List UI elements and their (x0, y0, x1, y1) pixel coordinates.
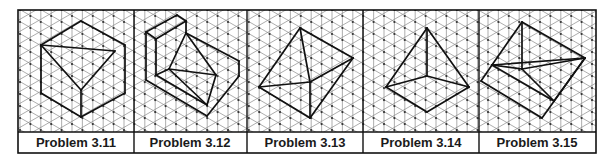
grid-dot (373, 57, 375, 59)
grid-dot (50, 63, 52, 65)
grid-dot (144, 105, 146, 107)
grid-dot (165, 129, 167, 131)
edge-P-C (300, 28, 310, 82)
grid-dot (352, 105, 354, 107)
grid-dot (497, 81, 499, 83)
grid-dot (40, 117, 42, 119)
grid-dot (466, 27, 468, 29)
grid-dot (383, 99, 385, 101)
grid-dot (289, 69, 291, 71)
grid-dot (539, 129, 541, 131)
grid-dot (549, 87, 551, 89)
grid-dot (539, 81, 541, 83)
grid-dot (19, 129, 21, 131)
grid-dot (289, 93, 291, 95)
grid-dot (92, 63, 94, 65)
grid-dot (217, 87, 219, 89)
grid-dot (518, 57, 520, 59)
grid-dot (206, 69, 208, 71)
grid-dot (269, 45, 271, 47)
grid-dot (29, 123, 31, 125)
grid-dot (518, 117, 520, 119)
grid-line (18, 153, 596, 167)
grid-dot (518, 93, 520, 95)
grid-dot (71, 99, 73, 101)
grid-dot (102, 45, 104, 47)
grid-dot (487, 27, 489, 29)
grid-dot (508, 15, 510, 17)
grid-dot (269, 33, 271, 35)
grid-dot (425, 15, 427, 17)
grid-dot (206, 129, 208, 131)
grid-dot (154, 111, 156, 113)
grid-dot (539, 69, 541, 71)
grid-dot (217, 111, 219, 113)
grid-dot (29, 39, 31, 41)
grid-dot (373, 117, 375, 119)
edge-E-L (186, 33, 216, 75)
grid-dot (175, 63, 177, 65)
grid-dot (248, 117, 250, 119)
grid-dot (393, 33, 395, 35)
grid-dot (581, 69, 583, 71)
grid-dot (383, 87, 385, 89)
grid-dot (497, 105, 499, 107)
grid-dot (539, 45, 541, 47)
grid-dot (570, 63, 572, 65)
grid-dot (497, 117, 499, 119)
grid-dot (310, 129, 312, 131)
grid-dot (81, 129, 83, 131)
grid-dot (154, 15, 156, 17)
grid-dot (165, 57, 167, 59)
grid-dot (560, 105, 562, 107)
edge-R-C (81, 51, 115, 90)
grid-dot (352, 69, 354, 71)
grid-dot (466, 39, 468, 41)
grid-dot (466, 15, 468, 17)
grid-dot (19, 93, 21, 95)
grid-dot (435, 57, 437, 59)
grid-dot (237, 99, 239, 101)
grid-dot (175, 123, 177, 125)
grid-dot (269, 105, 271, 107)
grid-dot (61, 21, 63, 23)
grid-dot (206, 117, 208, 119)
edge-B-C (177, 15, 186, 21)
grid-dot (321, 111, 323, 113)
grid-dot (206, 81, 208, 83)
grid-dot (144, 81, 146, 83)
grid-dot (404, 27, 406, 29)
grid-dot (71, 15, 73, 17)
grid-dot (456, 117, 458, 119)
grid-dot (435, 129, 437, 131)
grid-dot (560, 33, 562, 35)
grid-dot (248, 129, 250, 131)
grid-dot (373, 21, 375, 23)
grid-dot (425, 123, 427, 125)
grid-dot (196, 51, 198, 53)
grid-dot (466, 51, 468, 53)
grid-dot (165, 117, 167, 119)
grid-dot (591, 51, 593, 53)
grid-dot (445, 63, 447, 65)
grid-dot (518, 45, 520, 47)
drawing-problem-5 (481, 22, 585, 118)
grid-dot (289, 57, 291, 59)
grid-dot (445, 15, 447, 17)
grid-dot (29, 75, 31, 77)
grid-dot (113, 75, 115, 77)
grid-dot (393, 105, 395, 107)
edge-P-R (300, 28, 353, 58)
grid-dot (227, 81, 229, 83)
grid-dot (404, 111, 406, 113)
grid-dot (19, 105, 21, 107)
grid-dot (237, 39, 239, 41)
grid-dot (29, 63, 31, 65)
grid-dot (352, 45, 354, 47)
grid-dot (19, 33, 21, 35)
grid-dot (352, 93, 354, 95)
grid-dot (248, 93, 250, 95)
grid-dot (393, 81, 395, 83)
grid-dot (404, 63, 406, 65)
grid-dot (40, 33, 42, 35)
